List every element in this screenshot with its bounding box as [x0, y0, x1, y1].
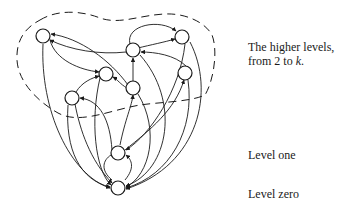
edges	[43, 24, 201, 189]
higher-levels-label: The higher levels, from 2 to k.	[248, 40, 334, 68]
node-f	[65, 91, 79, 105]
node-level-one	[111, 146, 125, 160]
higher-levels-range-text: from 2 to	[248, 54, 296, 68]
higher-levels-label-line1: The higher levels,	[248, 40, 334, 54]
level-one-label: Level one	[248, 148, 296, 162]
higher-levels-period: .	[301, 54, 304, 68]
node-c	[175, 30, 189, 44]
level-graph-diagram	[0, 0, 240, 208]
nodes	[36, 29, 192, 195]
node-b	[126, 43, 140, 57]
node-g	[126, 81, 140, 95]
node-d	[99, 67, 113, 81]
node-a	[36, 29, 50, 43]
node-e	[178, 66, 192, 80]
higher-levels-label-line2: from 2 to k.	[248, 54, 334, 68]
level-zero-label: Level zero	[248, 187, 299, 201]
node-level-zero	[111, 181, 125, 195]
